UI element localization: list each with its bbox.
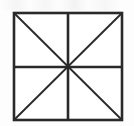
figure-canvas	[0, 0, 134, 126]
center-vertex-dot	[66, 65, 69, 68]
divided-square-figure	[0, 0, 134, 126]
